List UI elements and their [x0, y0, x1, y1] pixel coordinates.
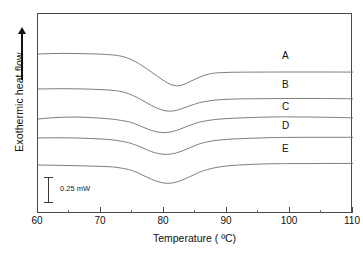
x-tick-label: 60	[31, 215, 42, 226]
x-axis-tick-labels: 60708090100110	[37, 215, 352, 229]
plot-area: A B C D E	[37, 13, 352, 213]
x-tick-label: 100	[281, 215, 298, 226]
x-tick-label: 70	[94, 215, 105, 226]
x-tick-minor	[68, 210, 69, 214]
series-label-b: B	[282, 79, 289, 90]
series-label-d: D	[282, 120, 289, 131]
curve-b	[38, 89, 353, 112]
dsc-thermogram-figure: Exothermic heat flow A B C D E 0.25 mW 6…	[0, 0, 363, 257]
x-tick-major	[226, 207, 227, 213]
x-tick-minor	[257, 210, 258, 214]
x-tick-label: 90	[220, 215, 231, 226]
x-tick-major	[100, 207, 101, 213]
curve-e	[38, 163, 353, 183]
curve-a	[38, 53, 353, 85]
x-tick-label: 80	[157, 215, 168, 226]
x-tick-major	[352, 207, 353, 213]
y-axis-label-group: Exothermic heat flow	[0, 0, 34, 215]
series-label-a: A	[282, 50, 289, 61]
y-axis-title: Exothermic heat flow	[13, 17, 25, 187]
x-tick-minor	[194, 210, 195, 214]
curve-c	[38, 117, 353, 133]
x-tick-minor	[131, 210, 132, 214]
x-axis-title: Temperature ( ºC)	[37, 232, 352, 244]
x-tick-label: 110	[344, 215, 360, 226]
curve-d	[38, 137, 353, 154]
series-label-c: C	[282, 101, 289, 112]
x-tick-major	[163, 207, 164, 213]
scale-bar-label: 0.25 mW	[60, 184, 90, 193]
x-tick-major	[37, 207, 38, 213]
x-tick-major	[289, 207, 290, 213]
scale-bar	[48, 177, 49, 203]
series-label-e: E	[282, 143, 289, 154]
x-tick-minor	[320, 210, 321, 214]
